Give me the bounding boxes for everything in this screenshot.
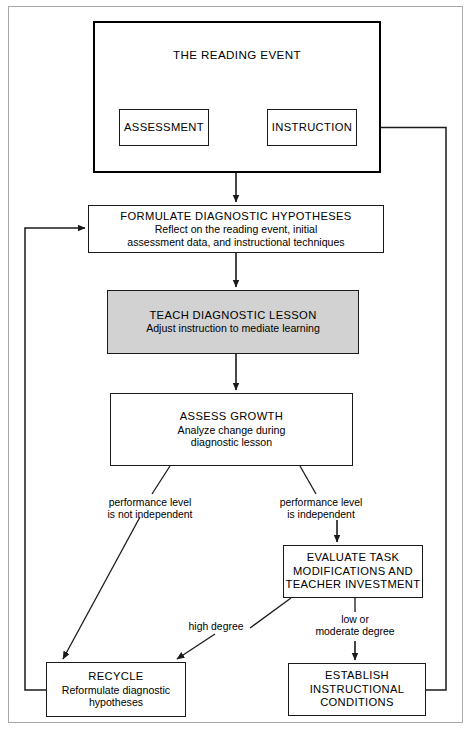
- node-evaluate-task: EVALUATE TASK MODIFICATIONS AND TEACHER …: [283, 545, 423, 598]
- node-formulate-hypotheses: FORMULATE DIAGNOSTIC HYPOTHESES Reflect …: [88, 205, 384, 253]
- scan-artifact: [2, 700, 9, 711]
- reading-event-title: THE READING EVENT: [93, 48, 381, 61]
- node-assessment-label: ASSESSMENT: [124, 121, 204, 135]
- node-establish-conditions: ESTABLISH INSTRUCTIONAL CONDITIONS: [288, 663, 426, 716]
- flowchart-figure: THE READING EVENT ASSESSMENT INSTRUCTION…: [0, 0, 472, 744]
- node-teach-detail: Adjust instruction to mediate learning: [146, 322, 320, 335]
- node-recycle: RECYCLE Reformulate diagnostic hypothese…: [46, 662, 186, 717]
- edge-label-moderate-degree: low or moderate degree: [305, 614, 405, 639]
- edge-label-high-degree: high degree: [171, 621, 261, 633]
- node-evaluate-heading: EVALUATE TASK MODIFICATIONS AND TEACHER …: [286, 551, 421, 592]
- node-formulate-heading: FORMULATE DIAGNOSTIC HYPOTHESES: [120, 210, 351, 224]
- node-assessment: ASSESSMENT: [119, 109, 209, 146]
- node-establish-heading: ESTABLISH INSTRUCTIONAL CONDITIONS: [310, 669, 405, 710]
- edge-label-independent: performance level is independent: [259, 497, 383, 522]
- node-instruction-label: INSTRUCTION: [272, 121, 352, 135]
- node-assess-detail: Analyze change during diagnostic lesson: [178, 424, 286, 449]
- node-formulate-detail: Reflect on the reading event, initial as…: [127, 223, 344, 248]
- reading-event-container: [93, 21, 381, 173]
- node-teach-heading: TEACH DIAGNOSTIC LESSON: [149, 309, 316, 323]
- node-recycle-heading: RECYCLE: [88, 670, 143, 684]
- node-teach-diagnostic-lesson: TEACH DIAGNOSTIC LESSON Adjust instructi…: [107, 290, 359, 354]
- node-assess-heading: ASSESS GROWTH: [180, 410, 283, 424]
- node-instruction: INSTRUCTION: [267, 109, 357, 146]
- node-assess-growth: ASSESS GROWTH Analyze change during diag…: [110, 393, 353, 466]
- edge-label-not-independent: performance level is not independent: [88, 497, 212, 522]
- node-recycle-detail: Reformulate diagnostic hypotheses: [62, 684, 170, 709]
